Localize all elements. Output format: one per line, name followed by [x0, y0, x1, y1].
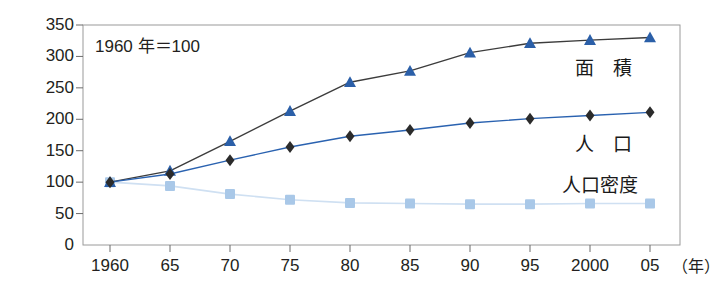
y-tick-label: 200	[22, 109, 74, 129]
data-point-marker	[225, 189, 235, 199]
data-point-marker	[285, 195, 295, 205]
y-tick-label: 150	[22, 141, 74, 161]
data-point-marker	[345, 198, 355, 208]
x-tick-label: 90	[461, 256, 480, 276]
data-point-marker	[165, 181, 175, 191]
y-axis-ticks	[76, 25, 83, 214]
x-axis-unit-label: （年）	[672, 253, 720, 277]
data-point-marker	[645, 199, 655, 209]
x-tick-label: 85	[401, 256, 420, 276]
y-tick-label: 250	[22, 78, 74, 98]
series-label-density: 人口密度	[562, 170, 638, 197]
y-tick-label: 300	[22, 46, 74, 66]
x-tick-label: 1960	[91, 256, 129, 276]
series-label-population: 人 口	[575, 129, 632, 156]
data-point-marker	[465, 199, 475, 209]
data-point-marker	[585, 199, 595, 209]
y-tick-label: 100	[22, 172, 74, 192]
data-point-marker	[525, 199, 535, 209]
x-tick-label: 70	[221, 256, 240, 276]
data-point-marker	[405, 199, 415, 209]
x-tick-label: 95	[521, 256, 540, 276]
x-tick-label: 05	[641, 256, 660, 276]
y-tick-label: 350	[22, 15, 74, 35]
series-label-area: 面 積	[575, 53, 632, 80]
chart-container: 050100150200250300350 196065707580859095…	[0, 0, 728, 284]
x-tick-label: 65	[161, 256, 180, 276]
base-year-note: 1960 年＝100	[95, 32, 200, 57]
x-tick-label: 80	[341, 256, 360, 276]
x-axis-ticks	[110, 245, 650, 252]
x-tick-label: 75	[281, 256, 300, 276]
x-tick-label: 2000	[571, 256, 609, 276]
y-tick-label: 0	[22, 235, 74, 255]
y-tick-label: 50	[22, 204, 74, 224]
